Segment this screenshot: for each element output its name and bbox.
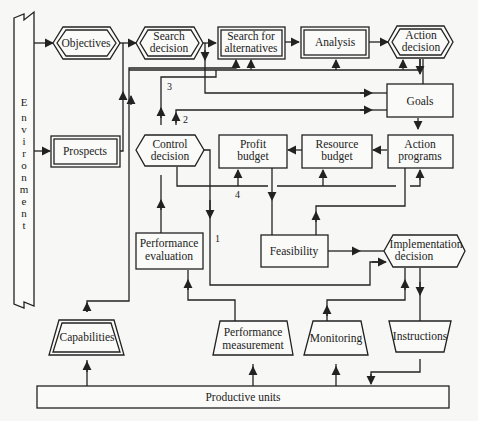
svg-text:Productive units: Productive units — [205, 391, 281, 403]
environment-banner: E n v i r o n m e n t — [14, 12, 34, 308]
svg-text:Capabilities: Capabilities — [60, 331, 115, 344]
node-action-decision: Action decision — [388, 26, 453, 58]
loop-label-2: 2 — [183, 114, 188, 125]
svg-text:t: t — [22, 219, 25, 231]
svg-text:Resource: Resource — [316, 138, 359, 150]
svg-text:m: m — [20, 183, 29, 195]
svg-text:Prospects: Prospects — [63, 145, 108, 158]
node-search-decision: Search decision — [136, 27, 203, 59]
node-control-decision: Control decision — [136, 135, 204, 166]
svg-text:v: v — [21, 123, 27, 135]
svg-text:Performance: Performance — [140, 237, 199, 249]
svg-text:Search for: Search for — [227, 30, 275, 42]
node-prospects: Prospects — [51, 136, 120, 167]
svg-text:decision: decision — [395, 250, 434, 262]
node-action-programs: Action programs — [388, 135, 453, 168]
loop-label-4: 4 — [235, 189, 240, 200]
svg-text:Analysis: Analysis — [315, 36, 356, 49]
loop-label-3: 3 — [167, 81, 172, 92]
svg-text:evaluation: evaluation — [145, 250, 193, 262]
svg-text:Profit: Profit — [240, 138, 267, 150]
node-analysis: Analysis — [301, 27, 369, 58]
node-resource-budget: Resource budget — [302, 135, 372, 168]
svg-text:Objectives: Objectives — [61, 37, 111, 50]
node-profit-budget: Profit budget — [219, 135, 287, 168]
svg-text:budget: budget — [321, 150, 353, 163]
svg-text:Performance: Performance — [224, 326, 283, 338]
node-feasibility: Feasibility — [261, 235, 328, 267]
node-search-alternatives: Search for alternatives — [218, 27, 285, 59]
svg-text:Monitoring: Monitoring — [310, 332, 363, 345]
svg-text:Action: Action — [404, 138, 436, 150]
svg-text:Feasibility: Feasibility — [270, 245, 319, 258]
node-goals: Goals — [387, 84, 453, 117]
node-monitoring: Monitoring — [304, 321, 368, 355]
node-implementation-decision: Implementation decision — [384, 235, 465, 267]
svg-text:e: e — [22, 195, 27, 207]
svg-text:Action: Action — [405, 29, 437, 41]
svg-text:decision: decision — [402, 41, 441, 53]
svg-text:budget: budget — [237, 150, 269, 163]
svg-text:Instructions: Instructions — [393, 330, 448, 342]
node-instructions: Instructions — [389, 321, 451, 352]
svg-text:n: n — [21, 171, 27, 183]
svg-text:i: i — [22, 135, 25, 147]
svg-text:Goals: Goals — [407, 95, 434, 107]
svg-text:E: E — [21, 96, 28, 108]
node-objectives: Objectives — [53, 27, 120, 59]
svg-text:r: r — [22, 147, 26, 159]
node-performance-evaluation: Performance evaluation — [136, 233, 203, 269]
node-productive-units: Productive units — [37, 386, 449, 408]
svg-text:alternatives: alternatives — [224, 42, 278, 54]
svg-text:n: n — [21, 111, 27, 123]
svg-text:programs: programs — [398, 150, 442, 163]
svg-text:measurement: measurement — [222, 339, 284, 351]
svg-text:Control: Control — [152, 138, 187, 150]
svg-text:Search: Search — [153, 30, 185, 42]
loop-label-1: 1 — [215, 233, 220, 244]
node-performance-measurement: Performance measurement — [213, 321, 293, 355]
management-control-flowchart: E n v i r o n m e n t — [0, 0, 478, 421]
svg-text:decision: decision — [150, 42, 189, 54]
svg-text:decision: decision — [151, 150, 190, 162]
svg-text:n: n — [21, 207, 27, 219]
svg-text:o: o — [21, 159, 27, 171]
node-capabilities: Capabilities — [49, 320, 124, 355]
